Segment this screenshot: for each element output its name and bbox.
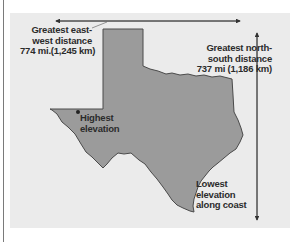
lowest-elevation-label: Lowest elevation along coast <box>196 179 247 211</box>
hi-line-2: elevation <box>80 124 119 135</box>
east-west-leader <box>92 22 107 28</box>
highest-elevation-label: Highest elevation <box>80 113 119 134</box>
ew-line-3: 774 mi.(1,245 km) <box>20 46 92 57</box>
lo-line-1: Lowest <box>196 179 247 190</box>
ns-line-3: 737 mi (1,186 km) <box>186 64 272 75</box>
hi-line-1: Highest <box>80 113 119 124</box>
ew-line-1: Greatest east- <box>20 25 92 36</box>
east-west-label: Greatest east- west distance 774 mi.(1,2… <box>20 25 92 57</box>
north-south-label: Greatest north- south distance 737 mi (1… <box>186 43 272 75</box>
lo-line-3: along coast <box>196 200 247 211</box>
ns-line-1: Greatest north- <box>186 43 272 54</box>
